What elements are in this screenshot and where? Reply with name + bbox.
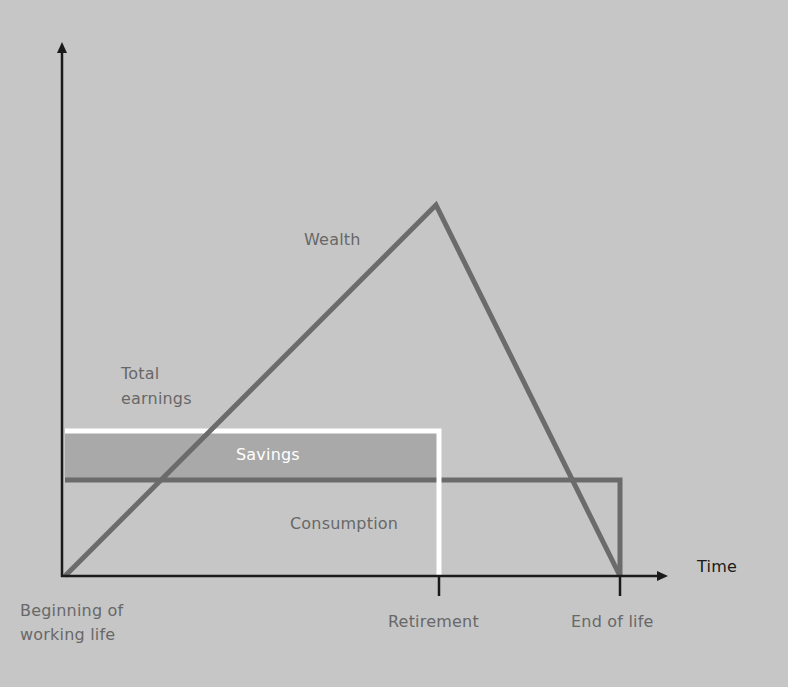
wealth-label: Wealth — [304, 229, 361, 251]
tick-label-start-line1: Beginning of — [20, 600, 123, 622]
tick-label-retirement: Retirement — [388, 611, 479, 633]
x-axis-arrow-icon — [657, 571, 668, 581]
chart-canvas — [0, 0, 788, 687]
life-cycle-diagram: Wealth Total earnings Savings Consumptio… — [0, 0, 788, 687]
total-earnings-label-line2: earnings — [121, 388, 192, 410]
consumption-label: Consumption — [290, 513, 398, 535]
tick-label-end-of-life: End of life — [571, 611, 654, 633]
tick-label-start-line2: working life — [20, 624, 115, 646]
x-axis-label: Time — [697, 556, 737, 578]
savings-label: Savings — [236, 444, 300, 466]
y-axis-arrow-icon — [57, 42, 67, 53]
total-earnings-label-line1: Total — [121, 363, 159, 385]
